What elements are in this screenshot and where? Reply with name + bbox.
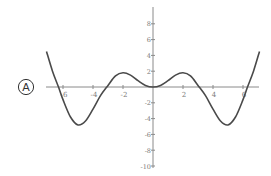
x-tick-label: 2 <box>182 91 186 99</box>
y-tick-label: 6 <box>147 36 151 44</box>
x-tick-label: -4 <box>91 91 98 99</box>
choice-letter: A <box>22 81 30 94</box>
tick-labels: -6-4-22468642-2-4-6-8-10 <box>61 20 247 170</box>
y-tick-label: -2 <box>145 99 151 107</box>
y-tick-label: -6 <box>145 131 151 139</box>
y-tick-label: -8 <box>145 147 151 155</box>
x-tick-label: 4 <box>212 91 217 99</box>
y-tick-label: -10 <box>141 163 151 171</box>
y-tick-label: 8 <box>147 20 151 28</box>
x-tick-label: -2 <box>121 91 128 99</box>
y-tick-label: 2 <box>147 68 151 76</box>
y-tick-label: 4 <box>147 52 151 60</box>
function-graph: -6-4-22468642-2-4-6-8-10 <box>0 0 271 176</box>
y-tick-label: -4 <box>145 115 151 123</box>
answer-choice-a[interactable]: A <box>17 78 35 96</box>
